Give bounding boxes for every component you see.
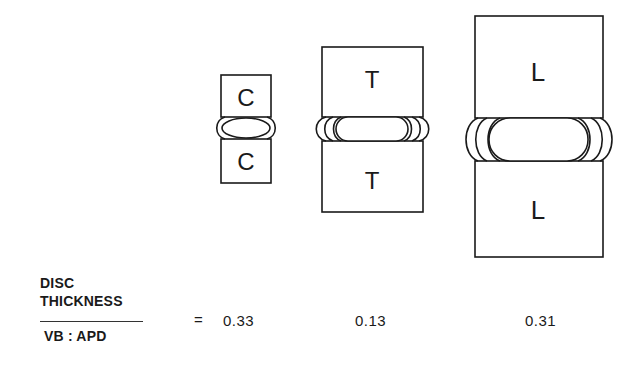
- lumbar-lower-label: L: [531, 195, 545, 225]
- formula-numerator-line1: DISC: [40, 275, 74, 291]
- cervical-upper-label: C: [237, 84, 254, 111]
- fraction-line: [40, 321, 143, 322]
- equals-sign: =: [194, 311, 203, 328]
- cervical-lower-label: C: [237, 148, 254, 175]
- cervical-disc: [217, 117, 276, 139]
- formula-numerator-line2: THICKNESS: [40, 293, 123, 309]
- thoracic-disc: [316, 117, 429, 141]
- thoracic-ratio: 0.13: [355, 312, 386, 329]
- thoracic-upper-label: T: [365, 66, 380, 93]
- cervical-ratio: 0.33: [223, 312, 254, 329]
- lumbar-ratio: 0.31: [525, 312, 556, 329]
- lumbar-disc: [466, 118, 612, 161]
- lumbar-upper-label: L: [531, 57, 545, 87]
- formula-denominator: VB : APD: [44, 328, 107, 344]
- thoracic-lower-label: T: [365, 167, 380, 194]
